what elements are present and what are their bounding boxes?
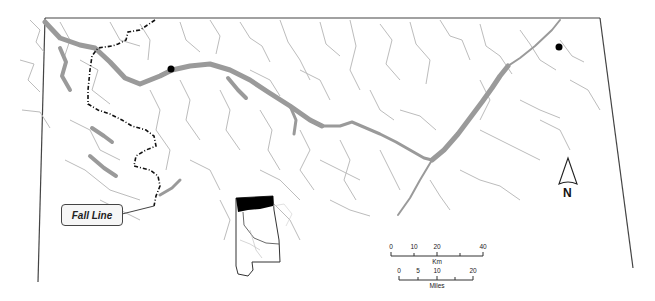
scale-bar-miles (399, 276, 473, 280)
svg-text:10: 10 (433, 267, 441, 274)
city-point-west (168, 66, 175, 73)
svg-text:0: 0 (397, 267, 401, 274)
fall-line-leader (122, 206, 154, 214)
svg-text:20: 20 (469, 267, 477, 274)
svg-text:Miles: Miles (429, 282, 445, 289)
alabama-inset-map (236, 196, 292, 276)
city-point-east (556, 44, 563, 51)
svg-text:5: 5 (416, 267, 420, 274)
river-basin-map: 0 10 20 40 Km 0 5 10 20 Miles (0, 0, 655, 301)
svg-text:Km: Km (432, 258, 442, 265)
north-arrow-icon (559, 158, 577, 184)
scale-bar-km (391, 252, 483, 256)
main-river (45, 20, 560, 215)
study-area-boundary (38, 18, 633, 282)
svg-text:10: 10 (410, 243, 418, 250)
svg-text:40: 40 (479, 243, 487, 250)
scale-km-labels: 0 10 20 40 Km (389, 243, 487, 265)
svg-text:20: 20 (433, 243, 441, 250)
svg-text:0: 0 (389, 243, 393, 250)
fall-line-label: Fall Line (61, 204, 123, 226)
north-label: N (563, 186, 572, 200)
